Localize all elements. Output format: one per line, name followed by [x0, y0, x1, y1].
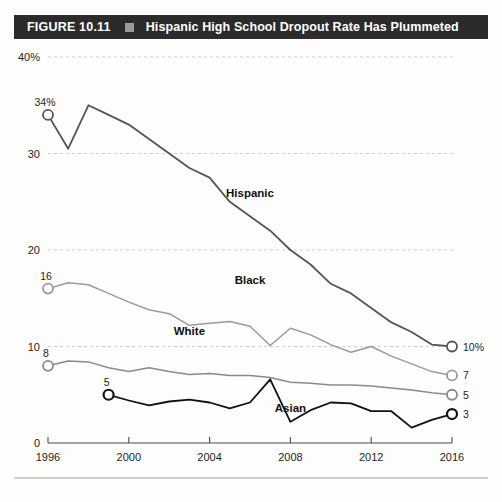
series-label-asian: Asian: [275, 402, 306, 414]
line-chart: 010203040%19962000200420082012201634%10%…: [0, 0, 502, 502]
series-label-hispanic: Hispanic: [226, 187, 275, 199]
series-line-hispanic: [48, 105, 452, 346]
x-tick-label: 2000: [117, 451, 141, 463]
start-label-white: 8: [43, 347, 49, 359]
y-tick-label: 0: [34, 437, 40, 449]
series-label-white: White: [174, 325, 205, 337]
start-label-asian: 5: [104, 376, 110, 388]
y-tick-label: 10: [28, 341, 40, 353]
start-marker-black: [43, 284, 53, 294]
end-label-black: 7: [463, 369, 469, 381]
start-label-black: 16: [40, 270, 52, 282]
series-label-black: Black: [235, 274, 266, 286]
y-tick-label: 40%: [18, 51, 40, 63]
figure-container: FIGURE 10.11 Hispanic High School Dropou…: [0, 0, 502, 502]
end-label-asian: 3: [463, 408, 469, 420]
y-tick-label: 30: [28, 148, 40, 160]
start-label-hispanic: 34%: [34, 96, 55, 108]
start-marker-asian: [104, 390, 114, 400]
start-marker-hispanic: [43, 110, 53, 120]
end-marker-white: [447, 390, 457, 400]
y-tick-label: 20: [28, 244, 40, 256]
x-tick-label: 2004: [197, 451, 221, 463]
end-marker-hispanic: [447, 342, 457, 352]
x-tick-label: 2012: [359, 451, 383, 463]
end-label-white: 5: [463, 389, 469, 401]
start-marker-white: [43, 361, 53, 371]
end-marker-asian: [447, 409, 457, 419]
series-line-black: [48, 283, 452, 376]
x-tick-label: 1996: [36, 451, 60, 463]
x-tick-label: 2016: [440, 451, 464, 463]
end-marker-black: [447, 370, 457, 380]
x-tick-label: 2008: [278, 451, 302, 463]
end-label-hispanic: 10%: [463, 341, 484, 353]
